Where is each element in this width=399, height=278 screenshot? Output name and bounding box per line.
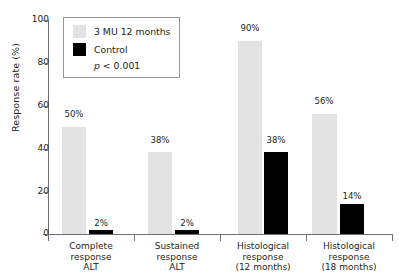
legend-swatch-control-icon <box>73 43 86 56</box>
x-tick-mark-4 <box>392 235 393 241</box>
x-category-label-1-line-2: ALT <box>134 262 220 273</box>
bar-treatment-histological-response-18-months <box>312 114 337 234</box>
x-category-label-0-line-2: ALT <box>48 262 134 273</box>
x-category-label-0: Complete response ALT <box>48 241 134 273</box>
x-category-label-2-line-2: (12 months) <box>220 262 306 273</box>
x-category-label-2-line-0: Histological <box>220 241 306 252</box>
bar-value-control-3: 14% <box>330 192 374 201</box>
bar-value-treatment-1: 38% <box>138 136 182 145</box>
bar-control-histological-response-12-months <box>264 152 288 234</box>
legend-label-control: Control <box>94 45 128 55</box>
bar-control-complete-response-alt <box>89 230 113 234</box>
x-category-label-2: Histological response (12 months) <box>220 241 306 273</box>
legend-item-treatment: 3 MU 12 months <box>73 25 170 38</box>
bar-value-treatment-0: 50% <box>52 110 96 119</box>
legend-item-control: Control <box>73 43 128 56</box>
x-category-label-1: Sustained response ALT <box>134 241 220 273</box>
y-axis-line <box>48 20 49 235</box>
y-tick-group-40: 40 <box>0 149 49 150</box>
legend-label-treatment: 3 MU 12 months <box>94 27 170 37</box>
bar-value-control-1: 2% <box>165 219 209 228</box>
bar-treatment-complete-response-alt <box>62 127 86 235</box>
y-tick-mark-20 <box>43 192 49 193</box>
x-category-label-3-line-1: response <box>306 252 392 263</box>
y-tick-group-0: 0 <box>0 234 49 235</box>
legend-pvalue-annotation: p < 0.001 <box>94 61 140 71</box>
y-tick-group-100: 100 <box>0 20 49 21</box>
bar-control-histological-response-18-months <box>340 204 364 234</box>
y-tick-group-80: 80 <box>0 63 49 64</box>
y-tick-group-60: 60 <box>0 106 49 107</box>
bar-value-control-0: 2% <box>79 219 123 228</box>
bar-value-control-2: 38% <box>254 136 298 145</box>
y-tick-mark-100 <box>43 20 49 21</box>
bar-value-treatment-2: 90% <box>228 24 272 33</box>
legend-swatch-treatment-icon <box>73 25 86 38</box>
x-category-label-0-line-1: response <box>48 252 134 263</box>
y-tick-group-20: 20 <box>0 192 49 193</box>
bar-chart: Response rate (%) 100 80 60 40 20 0 50% … <box>0 0 399 278</box>
chart-legend: 3 MU 12 months Control p < 0.001 <box>63 17 180 78</box>
bar-control-sustained-response-alt <box>175 230 199 234</box>
legend-pvalue-rest: < 0.001 <box>100 60 140 71</box>
x-category-label-2-line-1: response <box>220 252 306 263</box>
y-tick-mark-80 <box>43 63 49 64</box>
x-category-label-1-line-1: response <box>134 252 220 263</box>
x-category-label-0-line-0: Complete <box>48 241 134 252</box>
y-tick-mark-40 <box>43 149 49 150</box>
x-category-label-1-line-0: Sustained <box>134 241 220 252</box>
x-category-label-3-line-2: (18 months) <box>306 262 392 273</box>
bar-value-treatment-3: 56% <box>302 97 346 106</box>
x-category-label-3-line-0: Histological <box>306 241 392 252</box>
y-tick-mark-60 <box>43 106 49 107</box>
x-category-label-3: Histological response (18 months) <box>306 241 392 273</box>
y-axis-title: Response rate (%) <box>10 28 21 148</box>
